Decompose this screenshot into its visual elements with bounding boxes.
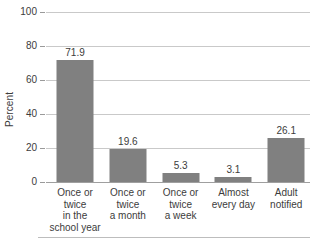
category-label: Once or twice a month bbox=[101, 187, 154, 222]
bar-series: 71.919.65.33.126.1 bbox=[46, 12, 310, 182]
bar-value-label: 3.1 bbox=[226, 165, 240, 175]
plot-area: 020406080100 71.919.65.33.126.1 bbox=[46, 12, 310, 182]
bar-value-label: 71.9 bbox=[65, 48, 84, 58]
bar-group: 71.9 bbox=[49, 12, 102, 182]
category-label: Once or twice in the school year bbox=[49, 187, 102, 233]
y-tick-label: 100 bbox=[20, 7, 37, 17]
y-tick-label: 20 bbox=[26, 143, 37, 153]
category-label: Adult notified bbox=[260, 187, 313, 210]
y-tick-mark bbox=[40, 114, 45, 115]
footer-divider bbox=[38, 237, 310, 238]
bar[interactable] bbox=[268, 138, 305, 182]
bar-value-label: 26.1 bbox=[276, 126, 295, 136]
bar[interactable] bbox=[162, 173, 199, 182]
y-tick-label: 60 bbox=[26, 75, 37, 85]
bar-group: 3.1 bbox=[207, 12, 260, 182]
y-tick-mark bbox=[40, 46, 45, 47]
y-tick-mark bbox=[40, 12, 45, 13]
bar-group: 19.6 bbox=[101, 12, 154, 182]
y-axis-title: Percent bbox=[4, 75, 15, 145]
y-tick-mark bbox=[40, 182, 45, 183]
bar-chart: Percent 020406080100 71.919.65.33.126.1 … bbox=[0, 0, 320, 248]
bar-value-label: 19.6 bbox=[118, 137, 137, 147]
x-axis-line bbox=[46, 182, 310, 183]
y-tick-label: 40 bbox=[26, 109, 37, 119]
y-tick-mark bbox=[40, 80, 45, 81]
bar[interactable] bbox=[57, 60, 94, 182]
y-tick-label: 0 bbox=[31, 177, 37, 187]
y-tick-mark bbox=[40, 148, 45, 149]
category-label: Almost every day bbox=[207, 187, 260, 210]
bar-group: 5.3 bbox=[154, 12, 207, 182]
y-tick-label: 80 bbox=[26, 41, 37, 51]
bar-group: 26.1 bbox=[260, 12, 313, 182]
category-label: Once or twice a week bbox=[154, 187, 207, 222]
x-axis-tick-labels: Once or twice in the school yearOnce or … bbox=[46, 187, 310, 233]
bar-value-label: 5.3 bbox=[174, 161, 188, 171]
bar[interactable] bbox=[109, 149, 146, 182]
